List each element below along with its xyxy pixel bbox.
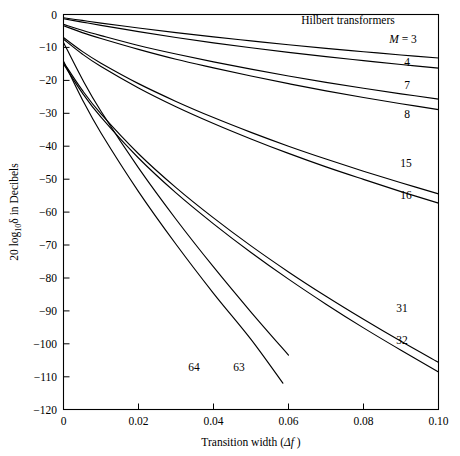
y-tick-label: −110: [34, 371, 58, 383]
curve-label-64: 64: [188, 361, 200, 373]
curve-8: [64, 26, 439, 110]
curve-31: [64, 62, 439, 362]
y-tick-label: −30: [39, 107, 57, 119]
curve-32: [64, 64, 439, 372]
y-tick-label: −50: [39, 173, 57, 185]
hilbert-transformer-chart-figure: 0 0.02 0.04 0.06 0.08 0.10 0 −10 −20 −30…: [0, 0, 460, 456]
curve-label-16: 16: [400, 189, 412, 201]
curve-label-31: 31: [396, 302, 408, 314]
y-tick-label: −10: [39, 41, 57, 53]
y-tick-label: −100: [33, 338, 57, 350]
curve-64: [64, 61, 283, 383]
y-tick-label: −120: [33, 404, 57, 416]
y-axis-title-subscript: 10: [14, 224, 23, 232]
x-axis-ticks: [64, 404, 439, 410]
x-axis-title: Transition width (Δf ): [201, 436, 300, 449]
x-tick-labels: 0 0.02 0.04 0.06 0.08 0.10: [61, 415, 449, 427]
x-tick-label: 0.06: [278, 415, 298, 427]
y-tick-label: −90: [39, 305, 57, 317]
y-tick-label: −20: [39, 74, 57, 86]
x-tick-label: 0: [61, 415, 67, 427]
curve-label-4: 4: [404, 56, 410, 68]
plot-heading: Hilbert transformers: [301, 14, 395, 26]
x-axis-title-prefix: Transition width (: [201, 436, 284, 449]
curve-7: [64, 24, 439, 99]
y-axis-ticks: [64, 15, 70, 410]
curve-annotations: M = 3 4 7 8 15 16 31 32 63 64: [188, 33, 417, 373]
curve-15: [64, 38, 439, 194]
x-tick-label: 0.02: [128, 415, 148, 427]
curve-group: [64, 18, 439, 383]
x-tick-label: 0.10: [428, 415, 448, 427]
y-axis-title-suffix: in Decibels: [8, 163, 20, 218]
y-tick-label: −60: [39, 206, 57, 218]
x-tick-label: 0.04: [203, 415, 223, 427]
y-tick-label: −80: [39, 272, 57, 284]
chart-canvas: 0 0.02 0.04 0.06 0.08 0.10 0 −10 −20 −30…: [0, 0, 460, 456]
y-axis-title: 20 log10δ in Decibels: [8, 163, 23, 261]
curve-label-m3: M = 3: [388, 33, 417, 45]
curve-label-32: 32: [396, 334, 408, 346]
curve-label-63: 63: [233, 361, 245, 373]
curve-label-15: 15: [400, 157, 412, 169]
y-tick-label: −40: [39, 140, 57, 152]
x-tick-label: 0.08: [353, 415, 373, 427]
curve-16: [64, 39, 439, 203]
y-tick-labels: 0 −10 −20 −30 −40 −50 −60 −70 −80 −90 −1…: [33, 9, 57, 416]
curve-label-8: 8: [404, 108, 410, 120]
y-tick-label: −70: [39, 239, 57, 251]
curve-label-7: 7: [404, 79, 410, 91]
y-axis-title-prefix: 20 log: [8, 231, 21, 260]
curve-63: [64, 42, 289, 355]
y-tick-label: 0: [51, 9, 57, 21]
x-axis-title-suffix: ): [294, 436, 301, 449]
